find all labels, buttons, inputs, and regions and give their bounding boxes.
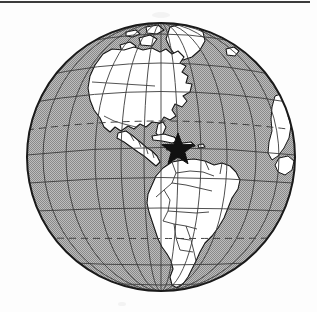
- scan-speck: [152, 12, 170, 18]
- land-lesser-antilles: [198, 144, 205, 148]
- land-scandinavia-edge: [280, 47, 296, 60]
- scan-speck: [118, 302, 126, 306]
- globe-figure: World globe centered on the Americas wit…: [0, 0, 317, 312]
- globe-illustration: [0, 0, 317, 312]
